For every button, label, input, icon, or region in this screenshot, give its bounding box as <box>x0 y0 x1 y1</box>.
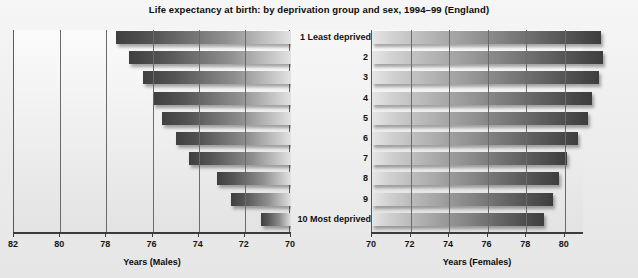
x-tick-males <box>244 232 245 237</box>
gridline-males <box>245 30 246 232</box>
bar-male <box>116 31 291 44</box>
category-label: 7 <box>363 153 368 163</box>
x-tick-females <box>525 232 526 237</box>
x-tick-label-females: 70 <box>366 239 376 249</box>
bar-female <box>372 213 544 226</box>
gridline-males <box>199 30 200 232</box>
bar-male <box>217 172 291 185</box>
x-tick-males <box>13 232 14 237</box>
category-label: 3 <box>363 72 368 82</box>
bar-male <box>143 71 291 84</box>
category-axis-labels: 1 Least deprived2345678910 Most deprived <box>291 30 370 232</box>
x-axis-title-females: Years (Females) <box>443 257 512 267</box>
category-label: 6 <box>363 133 368 143</box>
bar-male <box>153 92 292 105</box>
x-tick-label-females: 76 <box>482 239 492 249</box>
x-tick-females <box>410 232 411 237</box>
x-tick-males <box>290 232 291 237</box>
x-tick-males <box>152 232 153 237</box>
category-label: 9 <box>363 194 368 204</box>
x-tick-label-females: 72 <box>405 239 415 249</box>
x-tick-label-males: 78 <box>100 239 110 249</box>
bar-male <box>189 152 291 165</box>
category-label: 2 <box>363 52 368 62</box>
x-tick-females <box>487 232 488 237</box>
category-label: 5 <box>363 113 368 123</box>
x-tick-males <box>198 232 199 237</box>
bar-female <box>372 92 592 105</box>
bar-male <box>162 112 291 125</box>
gridline-females <box>488 30 489 232</box>
x-axis-females <box>371 232 583 234</box>
gridline-females <box>565 30 566 232</box>
x-tick-males <box>105 232 106 237</box>
x-tick-label-males: 82 <box>8 239 18 249</box>
bar-group-males <box>14 30 289 232</box>
chart-title: Life expectancy at birth: by deprivation… <box>0 4 638 15</box>
bar-female <box>372 132 578 145</box>
x-tick-label-females: 78 <box>520 239 530 249</box>
gridline-males <box>60 30 61 232</box>
plot-area-males <box>13 30 290 232</box>
gridline-males <box>106 30 107 232</box>
x-tick-label-females: 74 <box>443 239 453 249</box>
x-tick-label-males: 70 <box>285 239 295 249</box>
bar-female <box>372 112 588 125</box>
x-tick-label-males: 74 <box>193 239 203 249</box>
plot-area-females <box>371 30 583 232</box>
x-tick-females <box>371 232 372 237</box>
x-tick-label-males: 76 <box>146 239 156 249</box>
x-tick-males <box>59 232 60 237</box>
x-tick-label-females: 80 <box>559 239 569 249</box>
bar-male <box>176 132 291 145</box>
gridline-females <box>411 30 412 232</box>
x-axis-title-males: Years (Males) <box>123 257 181 267</box>
bar-male <box>261 213 291 226</box>
bar-female <box>372 152 567 165</box>
bar-group-females <box>372 30 583 232</box>
x-tick-label-males: 80 <box>54 239 64 249</box>
category-label: 1 Least deprived <box>300 32 371 42</box>
bar-female <box>372 172 559 185</box>
gridline-females <box>449 30 450 232</box>
category-label: 4 <box>363 93 368 103</box>
category-label: 10 Most deprived <box>297 214 371 224</box>
x-tick-females <box>448 232 449 237</box>
chart-page: Life expectancy at birth: by deprivation… <box>0 0 638 278</box>
x-tick-females <box>564 232 565 237</box>
bar-male <box>231 193 291 206</box>
gridline-males <box>153 30 154 232</box>
gridline-females <box>526 30 527 232</box>
category-label: 8 <box>363 173 368 183</box>
bar-male <box>129 51 291 64</box>
x-tick-label-males: 72 <box>239 239 249 249</box>
